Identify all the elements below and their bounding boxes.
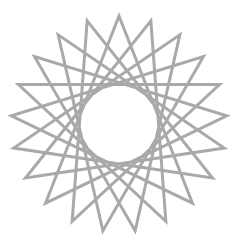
star-polygon-graphic: [0, 0, 236, 240]
star-polygon-outline: [11, 16, 226, 231]
star-figure-canvas: [0, 0, 236, 240]
